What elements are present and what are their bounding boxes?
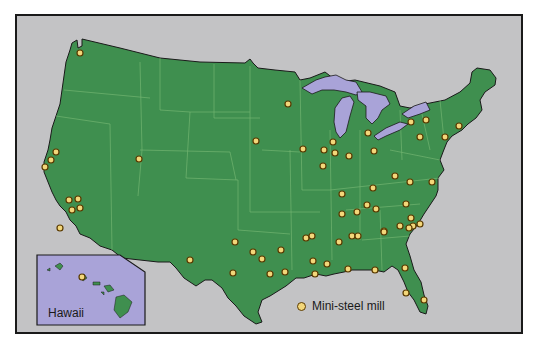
mill-marker xyxy=(230,270,236,276)
mill-marker xyxy=(324,261,330,267)
mill-marker xyxy=(320,163,326,169)
us-map xyxy=(17,16,523,334)
legend-label: Mini-steel mill xyxy=(312,299,385,313)
mill-marker xyxy=(403,201,409,207)
mill-marker xyxy=(232,239,238,245)
mill-marker xyxy=(282,269,288,275)
mill-marker xyxy=(403,290,409,296)
mill-marker xyxy=(349,233,355,239)
mill-marker xyxy=(332,150,338,156)
mill-marker xyxy=(346,153,352,159)
mill-marker xyxy=(259,256,265,262)
mill-marker xyxy=(66,197,72,203)
circle-marker-icon xyxy=(297,302,306,311)
mill-marker xyxy=(421,297,427,303)
map-frame xyxy=(15,14,523,334)
mill-marker xyxy=(372,267,378,273)
mill-marker xyxy=(77,205,83,211)
mill-marker xyxy=(355,233,361,239)
mill-marker xyxy=(365,130,371,136)
mill-marker xyxy=(429,179,435,185)
mill-marker xyxy=(75,196,81,202)
hawaii-label: Hawaii xyxy=(48,306,84,320)
mill-marker xyxy=(69,207,75,213)
mill-marker xyxy=(187,257,193,263)
mill-marker xyxy=(345,266,351,272)
mill-marker xyxy=(392,173,398,179)
mill-marker xyxy=(371,148,377,154)
mill-marker xyxy=(79,274,85,280)
mill-marker xyxy=(57,225,63,231)
mill-marker xyxy=(53,149,59,155)
mill-marker xyxy=(339,191,345,197)
mill-marker xyxy=(373,206,379,212)
mill-marker xyxy=(48,157,54,163)
mill-marker xyxy=(408,215,414,221)
legend: Mini-steel mill xyxy=(297,299,385,313)
mill-marker xyxy=(303,235,309,241)
mill-marker xyxy=(397,223,403,229)
mill-marker xyxy=(253,138,259,144)
mill-marker xyxy=(321,147,327,153)
mill-marker xyxy=(406,225,412,231)
mill-marker xyxy=(456,123,462,129)
mill-marker xyxy=(381,229,387,235)
mill-marker xyxy=(339,211,345,217)
mill-marker xyxy=(417,221,423,227)
mill-marker xyxy=(250,249,256,255)
mill-marker xyxy=(77,50,83,56)
mill-marker xyxy=(285,101,291,107)
mill-marker xyxy=(267,271,273,277)
mill-marker xyxy=(354,209,360,215)
mill-marker xyxy=(423,117,429,123)
mill-marker xyxy=(442,134,448,140)
mill-marker xyxy=(300,146,306,152)
mill-marker xyxy=(370,185,376,191)
mill-marker xyxy=(310,258,316,264)
mill-marker xyxy=(408,119,414,125)
mill-marker xyxy=(136,156,142,162)
mill-marker xyxy=(330,139,336,145)
mill-marker xyxy=(309,233,315,239)
mill-marker xyxy=(336,239,342,245)
mill-marker xyxy=(402,265,408,271)
mill-marker xyxy=(42,164,48,170)
mill-marker xyxy=(312,271,318,277)
mill-marker xyxy=(407,179,413,185)
mill-marker xyxy=(278,247,284,253)
mill-marker xyxy=(417,134,423,140)
mill-marker xyxy=(364,202,370,208)
